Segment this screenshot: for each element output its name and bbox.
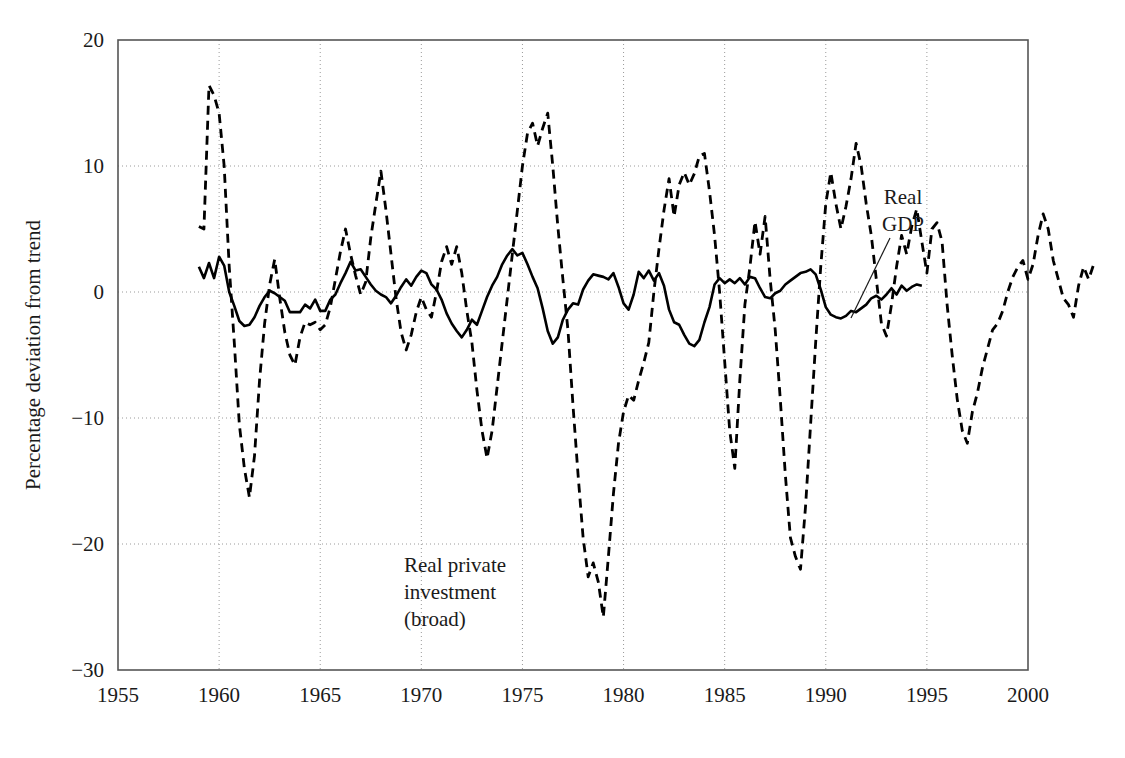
annotation-line: investment (404, 580, 496, 604)
y-axis-title-text: Percentage deviation from trend (21, 220, 45, 490)
x-tick-label: 1990 (805, 683, 847, 707)
x-tick-label: 1960 (198, 683, 240, 707)
annotation-line: Real (884, 185, 923, 209)
annotation-line: (broad) (404, 607, 466, 631)
x-tick-label: 1955 (97, 683, 139, 707)
x-tick-label: 2000 (1007, 683, 1049, 707)
annotation-line: Real private (404, 553, 506, 577)
x-tick-label: 1970 (400, 683, 442, 707)
chart-canvas: 1955196019651970197519801985199019952000… (0, 0, 1125, 758)
y-axis-title: Percentage deviation from trend (21, 220, 45, 490)
chart-figure: 1955196019651970197519801985199019952000… (0, 0, 1125, 758)
x-tick-label: 1975 (501, 683, 543, 707)
y-tick-label: −10 (71, 406, 104, 430)
x-tick-label: 1980 (603, 683, 645, 707)
annotation-line: GDP (882, 212, 924, 236)
y-tick-label: 20 (83, 28, 104, 52)
x-tick-label: 1985 (704, 683, 746, 707)
x-tick-label: 1995 (906, 683, 948, 707)
y-tick-label: 10 (83, 154, 104, 178)
y-tick-label: −30 (71, 658, 104, 682)
y-tick-label: 0 (94, 280, 105, 304)
y-tick-label: −20 (71, 532, 104, 556)
x-tick-label: 1965 (299, 683, 341, 707)
